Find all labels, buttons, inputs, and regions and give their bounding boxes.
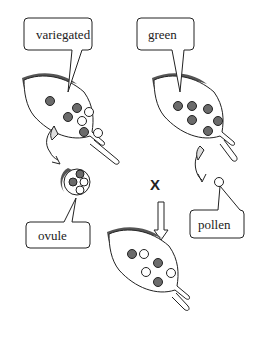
green-plastid [174, 102, 183, 111]
white-plastid [140, 250, 149, 259]
white-plastid [76, 186, 84, 194]
green-plastid [76, 170, 84, 178]
green-plastid [204, 105, 213, 114]
green-plastid [64, 113, 73, 122]
white-plastid [78, 117, 87, 126]
white-plastid [167, 269, 176, 278]
white-plastid [94, 129, 103, 138]
offspring-leaf [107, 227, 190, 299]
green-plastid [46, 97, 55, 106]
green-plastid [154, 278, 163, 287]
curved-arrow-to-pollen [195, 146, 206, 182]
ovule-callout: ovule [26, 198, 90, 248]
pollen-label: pollen [198, 217, 231, 232]
green-leaf [152, 73, 235, 145]
variegated-leaf [22, 73, 105, 145]
green-plastid [69, 178, 77, 186]
green-label: green [148, 27, 177, 42]
diagram-canvas: variegated ovule green [0, 0, 255, 340]
leaf-blade [109, 230, 190, 299]
pollen [215, 178, 224, 187]
pollen-callout: pollen [190, 186, 244, 238]
variegated-label: variegated [36, 27, 91, 42]
green-plastid [154, 259, 163, 268]
ovule [61, 168, 90, 195]
green-plastid [188, 116, 197, 125]
cross-symbol: X [150, 176, 160, 193]
green-plastid [128, 250, 137, 259]
ovule-label: ovule [38, 228, 67, 243]
green-plastid [73, 104, 82, 113]
white-plastid [85, 108, 94, 117]
green-plastid [80, 128, 89, 137]
leaf-blade [154, 76, 235, 145]
green-plastid [214, 117, 223, 126]
pollen-grain [215, 178, 224, 187]
white-plastid [80, 178, 88, 186]
green-plastid [204, 127, 213, 136]
white-plastid [142, 268, 151, 277]
green-plastid [188, 102, 197, 111]
